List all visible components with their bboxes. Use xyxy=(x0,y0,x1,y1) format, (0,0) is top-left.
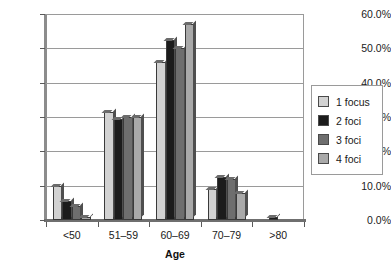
bar-top-face xyxy=(163,38,174,41)
bar xyxy=(81,217,91,220)
bar xyxy=(236,193,246,220)
bar-top-face xyxy=(79,215,90,218)
legend-label: 1 focus xyxy=(336,96,370,108)
x-tick-mark xyxy=(201,222,202,227)
x-tick-mark xyxy=(98,222,99,227)
legend: 1 focus2 foci3 foci4 foci xyxy=(311,85,383,175)
bar xyxy=(104,112,114,220)
bar-top-face xyxy=(60,199,71,202)
legend-item: 3 foci xyxy=(312,130,382,149)
x-tick-mark xyxy=(149,222,150,227)
bar-top-face xyxy=(102,110,113,113)
x-axis-title: Age xyxy=(0,248,350,260)
bar-top-face xyxy=(182,22,193,25)
bar-top-face xyxy=(69,204,80,207)
bar xyxy=(175,48,185,220)
bar-top-face xyxy=(154,60,165,63)
bar xyxy=(227,179,237,220)
y-tick-mark xyxy=(40,83,45,84)
bar xyxy=(269,217,279,220)
bar xyxy=(62,201,72,220)
x-tick-label: >80 xyxy=(269,229,287,241)
bar xyxy=(114,119,124,220)
x-tick-mark xyxy=(304,222,305,227)
bar-side-face xyxy=(277,213,280,217)
y-tick-mark xyxy=(40,117,45,118)
bars-layer xyxy=(46,14,304,220)
x-tick-label: <50 xyxy=(63,229,81,241)
legend-swatch-icon xyxy=(318,153,329,164)
bar-top-face xyxy=(215,175,226,178)
bar-top-face xyxy=(173,46,184,49)
legend-swatch-icon xyxy=(318,96,329,107)
x-tick-label: 70–79 xyxy=(212,229,241,241)
bar xyxy=(156,62,166,220)
bar-side-face xyxy=(193,21,196,218)
x-tick-mark xyxy=(252,222,253,227)
bar xyxy=(133,117,143,220)
bar-top-face xyxy=(205,187,216,190)
bar xyxy=(123,117,133,220)
legend-swatch-icon xyxy=(318,134,329,145)
bar-top-face xyxy=(130,115,141,118)
bar-side-face xyxy=(141,114,144,218)
bar-top-face xyxy=(234,191,245,194)
legend-label: 3 foci xyxy=(336,134,361,146)
x-tick-mark xyxy=(46,222,47,227)
bar xyxy=(53,186,63,220)
legend-item: 2 foci xyxy=(312,111,382,130)
legend-swatch-icon xyxy=(318,115,329,126)
bar xyxy=(185,24,195,220)
y-tick-mark xyxy=(40,220,45,221)
legend-label: 4 foci xyxy=(336,153,361,165)
bar-top-face xyxy=(266,215,277,218)
bar-chart: 0.0%10.0%20.0%30.0%40.0%50.0%60.0% <5051… xyxy=(0,0,391,271)
legend-item: 1 focus xyxy=(312,92,382,111)
legend-item: 4 foci xyxy=(312,149,382,168)
y-tick-label: 50.0% xyxy=(349,42,391,54)
bar-top-face xyxy=(50,184,61,187)
y-tick-label: 60.0% xyxy=(349,8,391,20)
y-tick-mark xyxy=(40,48,45,49)
bar-side-face xyxy=(245,189,248,217)
legend-label: 2 foci xyxy=(336,115,361,127)
y-tick-mark xyxy=(40,151,45,152)
y-tick-mark xyxy=(40,186,45,187)
x-tick-label: 51–59 xyxy=(109,229,138,241)
y-tick-label: 10.0% xyxy=(349,180,391,192)
bar xyxy=(208,189,218,220)
bar-top-face xyxy=(224,177,235,180)
y-tick-mark xyxy=(40,14,45,15)
bar xyxy=(217,177,227,220)
y-tick-label: 0.0% xyxy=(349,214,391,226)
bar-side-face xyxy=(90,213,93,217)
x-tick-label: 60–69 xyxy=(160,229,189,241)
bar xyxy=(166,40,176,220)
